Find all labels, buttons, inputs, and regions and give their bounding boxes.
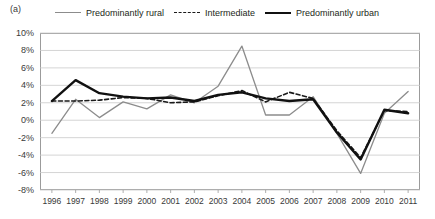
series-line-2 [52,80,408,159]
series-line-1 [52,91,408,158]
plot-area [0,0,435,219]
chart-figure: (a) Predominantly ruralIntermediatePredo… [0,0,435,219]
